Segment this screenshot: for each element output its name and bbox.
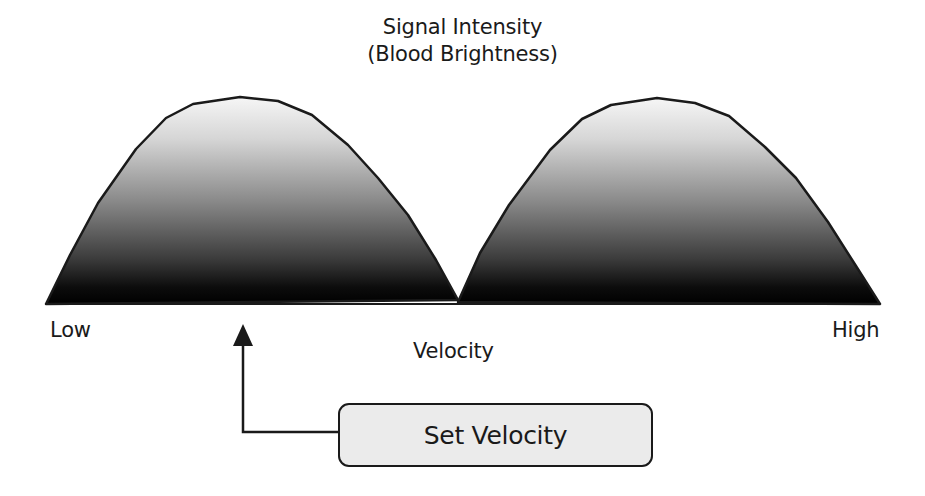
axis-low-label: Low: [50, 318, 91, 342]
set-velocity-box: Set Velocity: [338, 403, 653, 467]
axis-high-label: High: [832, 318, 879, 342]
right-signal-lobe: [458, 98, 880, 304]
arrow-head-icon: [233, 324, 253, 346]
axis-velocity-label: Velocity: [413, 339, 494, 363]
left-signal-lobe: [46, 97, 458, 304]
callout-connector: [243, 340, 339, 432]
set-velocity-label: Set Velocity: [424, 421, 567, 450]
